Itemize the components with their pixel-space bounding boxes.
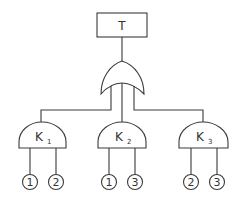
basic-event-label: 1	[27, 176, 34, 189]
gate-label: K	[115, 130, 124, 144]
basic-event-label: 2	[188, 176, 195, 189]
basic-event-label: 3	[214, 176, 221, 189]
top-event-label: T	[117, 19, 126, 33]
basic-event-label: 3	[132, 176, 139, 189]
gate-subscript: 1	[47, 138, 51, 146]
gate-label: K	[35, 130, 44, 144]
and-gate-k3: K 3 2 3	[179, 122, 228, 190]
top-event: T	[97, 13, 147, 37]
gate-subscript: 3	[208, 138, 212, 146]
connector-or-k1	[41, 86, 111, 122]
basic-event-label: 2	[53, 176, 60, 189]
gate-label: K	[196, 130, 205, 144]
and-gate-k1: K 1 1 2	[19, 122, 66, 190]
basic-event-label: 1	[106, 176, 113, 189]
gate-subscript: 2	[127, 138, 131, 146]
and-gate-k2: K 2 1 3	[98, 122, 146, 190]
fault-tree-diagram: T K 1 1 2 K 2 1 3 K 3	[0, 0, 242, 209]
